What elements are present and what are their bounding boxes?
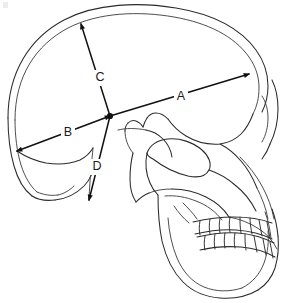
measurement-a: A bbox=[110, 73, 250, 116]
mandible bbox=[158, 195, 278, 298]
orbit bbox=[147, 139, 210, 177]
lower-teeth bbox=[197, 233, 275, 258]
corner-artifact bbox=[3, 2, 8, 8]
measurement-c: C bbox=[80, 23, 110, 116]
measurement-endpoint-c-far bbox=[80, 23, 85, 30]
measurement-d: D bbox=[88, 116, 110, 201]
zygomatic-arch bbox=[125, 113, 253, 153]
measurement-b: B bbox=[16, 115, 111, 151]
cranial-vault-outer bbox=[8, 5, 268, 118]
temporal-bone bbox=[17, 148, 96, 200]
intersection-point bbox=[107, 113, 113, 119]
sphenoid-region bbox=[118, 129, 172, 158]
skull-measurement-figure: ABCD bbox=[0, 0, 285, 303]
cranial-vault-inner bbox=[15, 14, 259, 120]
measurement-endpoint-a-far bbox=[243, 73, 250, 78]
measurement-label-d: D bbox=[92, 159, 101, 173]
nasal-aperture bbox=[130, 153, 172, 202]
skull-diagram-svg: ABCD bbox=[0, 0, 285, 303]
pterygoid-region bbox=[220, 80, 278, 219]
measurement-label-c: C bbox=[95, 70, 104, 84]
measurement-layer: ABCD bbox=[16, 23, 250, 201]
measurement-label-b: B bbox=[64, 125, 72, 139]
measurement-label-a: A bbox=[177, 89, 186, 103]
